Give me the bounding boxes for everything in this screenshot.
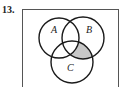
label-a: A	[50, 24, 58, 35]
label-b: B	[86, 24, 92, 35]
circle-a	[39, 18, 79, 58]
venn-diagram: A B C	[0, 0, 125, 87]
label-c: C	[67, 62, 74, 73]
